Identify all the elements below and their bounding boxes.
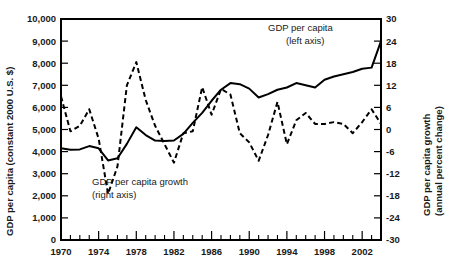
right-tick-label: -6 — [386, 146, 394, 157]
gdp-growth-label-line2: (right axis) — [92, 189, 136, 200]
left-axis-ticks — [61, 41, 68, 218]
right-tick-label: -18 — [386, 190, 400, 201]
right-axis-ticks — [374, 41, 381, 218]
x-tick-label: 1982 — [163, 246, 184, 257]
left-tick-label: 3,000 — [32, 168, 56, 179]
x-tick-label: 1970 — [50, 246, 71, 257]
chart-figure: GDP per capita (constant 2000 U.S. $) GD… — [0, 0, 449, 273]
left-tick-label: 2,000 — [32, 190, 56, 201]
left-tick-label: 1,000 — [32, 212, 56, 223]
gdp-per-capita-line — [61, 41, 381, 160]
left-axis-tick-labels: 10,0009,0008,0007,0006,0005,0004,0003,00… — [27, 13, 56, 245]
left-tick-label: 8,000 — [32, 58, 56, 69]
x-tick-label: 1990 — [239, 246, 260, 257]
left-tick-label: 5,000 — [32, 124, 56, 135]
x-axis-tick-labels: 197019741978198219861990199419982002 — [50, 246, 372, 257]
left-axis-title: GDP per capita (constant 2000 U.S. $) — [4, 67, 15, 236]
right-axis-title-line1: GDP per capita growth — [421, 114, 432, 216]
x-tick-label: 1974 — [88, 246, 110, 257]
x-axis-ticks — [61, 231, 381, 240]
left-tick-label: 4,000 — [32, 146, 56, 157]
right-tick-label: 12 — [386, 80, 397, 91]
plot-frame — [61, 19, 381, 240]
gdp-growth-line — [61, 62, 381, 194]
right-tick-label: 30 — [386, 13, 397, 24]
left-tick-label: 0 — [51, 234, 56, 245]
x-tick-label: 2002 — [352, 246, 373, 257]
right-tick-label: 0 — [386, 124, 391, 135]
right-axis-title-line2: (annual percent change) — [433, 106, 444, 216]
gdp-per-capita-label-line1: GDP per capita — [268, 22, 333, 33]
x-tick-label: 1986 — [201, 246, 222, 257]
right-tick-label: -24 — [386, 212, 400, 223]
right-tick-label: 18 — [386, 58, 397, 69]
left-tick-label: 9,000 — [32, 36, 56, 47]
right-tick-label: 6 — [386, 102, 391, 113]
right-axis-tick-labels: 3024181260-6-12-18-24-30 — [386, 13, 400, 245]
right-tick-label: -12 — [386, 168, 400, 179]
right-tick-label: 24 — [386, 36, 397, 47]
x-tick-label: 1998 — [314, 246, 335, 257]
left-tick-label: 10,000 — [27, 13, 56, 24]
left-tick-label: 7,000 — [32, 80, 56, 91]
gdp-growth-label-line1: GDP per capita growth — [92, 176, 188, 187]
gdp-per-capita-label-line2: (left axis) — [286, 35, 325, 46]
chart-svg: GDP per capita (constant 2000 U.S. $) GD… — [0, 0, 449, 273]
left-tick-label: 6,000 — [32, 102, 56, 113]
x-tick-label: 1978 — [126, 246, 147, 257]
right-tick-label: -30 — [386, 234, 400, 245]
x-tick-label: 1994 — [276, 246, 298, 257]
